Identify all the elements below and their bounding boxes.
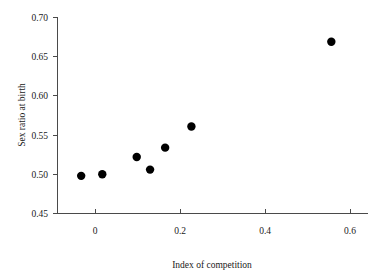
y-tick-label-0.70: 0.70 (31, 13, 48, 23)
data-point[interactable] (98, 170, 106, 178)
plot-canvas: 0.70 0.65 0.60 0.55 0.50 0.45 0 0.2 0.4 … (0, 0, 384, 280)
data-points-group (77, 38, 336, 180)
data-point[interactable] (77, 172, 85, 180)
y-tick-label-0.45: 0.45 (31, 209, 48, 219)
y-tick-label-0.60: 0.60 (31, 91, 48, 101)
x-axis-title: Index of competition (172, 260, 252, 270)
data-point[interactable] (327, 38, 335, 46)
x-tick-label-0.4: 0.4 (259, 226, 271, 236)
x-tick-label-0: 0 (93, 226, 98, 236)
y-tick-label-0.55: 0.55 (31, 131, 48, 141)
y-tick-label-0.50: 0.50 (31, 170, 48, 180)
y-axis-tick-labels: 0.70 0.65 0.60 0.55 0.50 0.45 (31, 13, 48, 219)
data-point[interactable] (133, 153, 141, 161)
data-point[interactable] (146, 165, 154, 173)
x-tick-label-0.2: 0.2 (174, 226, 186, 236)
x-axis-ticks (95, 209, 350, 214)
y-tick-label-0.65: 0.65 (31, 52, 48, 62)
scatter-plot-figure: 0.70 0.65 0.60 0.55 0.50 0.45 0 0.2 0.4 … (0, 0, 384, 280)
x-axis-tick-labels: 0 0.2 0.4 0.6 (93, 226, 356, 236)
data-point[interactable] (187, 122, 195, 130)
y-axis-title: Sex ratio at birth (17, 83, 27, 147)
data-point[interactable] (161, 143, 169, 151)
y-axis-ticks (53, 18, 58, 214)
x-tick-label-0.6: 0.6 (344, 226, 356, 236)
